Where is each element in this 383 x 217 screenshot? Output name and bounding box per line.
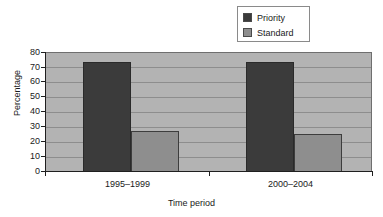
- y-tick-mark-10: [41, 156, 45, 157]
- legend-label-priority: Priority: [257, 13, 285, 23]
- y-tick-label-80: 80: [30, 48, 40, 57]
- y-tick-mark-20: [41, 141, 45, 142]
- bar-standard-2000-2004: [294, 134, 342, 171]
- x-tick-mark-start: [45, 171, 46, 176]
- legend-label-standard: Standard: [257, 28, 294, 38]
- bars-layer: [45, 53, 371, 171]
- y-tick-label-20: 20: [30, 137, 40, 146]
- y-tick-mark-40: [41, 111, 45, 112]
- legend-item-priority: Priority: [243, 10, 305, 25]
- bar-priority-1995-1999: [83, 62, 131, 171]
- plot-area: [45, 52, 372, 171]
- legend-swatch-priority: [243, 13, 252, 22]
- bar-priority-2000-2004: [246, 62, 294, 171]
- y-tick-label-30: 30: [30, 122, 40, 131]
- y-tick-label-40: 40: [30, 107, 40, 116]
- x-tick-label-1995-1999: 1995–1999: [75, 179, 180, 189]
- y-tick-mark-80: [41, 52, 45, 53]
- y-axis-title: Percentage: [12, 48, 22, 138]
- x-tick-label-2000-2004: 2000–2004: [238, 179, 343, 189]
- chart-legend: Priority Standard: [237, 6, 310, 42]
- legend-swatch-standard: [243, 28, 252, 37]
- x-tick-mark-end: [372, 171, 373, 176]
- y-tick-mark-60: [41, 81, 45, 82]
- legend-item-standard: Standard: [243, 25, 305, 40]
- y-tick-label-10: 10: [30, 152, 40, 161]
- y-tick-label-0: 0: [35, 167, 40, 176]
- y-tick-label-50: 50: [30, 92, 40, 101]
- y-tick-mark-30: [41, 126, 45, 127]
- bar-chart: Priority Standard 80 70 6: [0, 0, 383, 217]
- y-tick-mark-50: [41, 96, 45, 97]
- x-tick-mark-mid: [209, 171, 210, 176]
- x-axis-title: Time period: [0, 198, 383, 208]
- bar-standard-1995-1999: [131, 131, 179, 171]
- y-tick-mark-70: [41, 67, 45, 68]
- y-tick-label-60: 60: [30, 77, 40, 86]
- y-axis-line: [45, 52, 46, 172]
- y-tick-label-70: 70: [30, 63, 40, 72]
